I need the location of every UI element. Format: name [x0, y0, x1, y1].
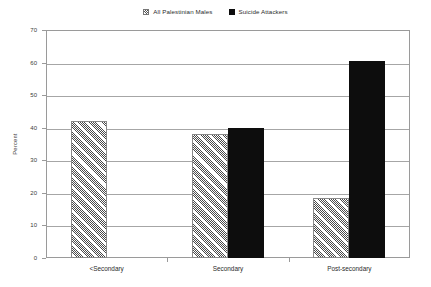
- x-tick-label: Post-secondary: [327, 266, 371, 272]
- y-axis-title: Percent: [12, 133, 18, 154]
- x-tick-mark: [289, 258, 290, 262]
- filled-square-icon: [229, 9, 235, 15]
- hatched-square-icon: [143, 9, 149, 15]
- gridline: [47, 64, 409, 65]
- legend-entry-suicide-attackers: Suicide Attackers: [229, 9, 288, 15]
- y-tick-label: 10: [30, 222, 37, 228]
- legend-entry-all-palestinian-males: All Palestinian Males: [143, 9, 212, 15]
- gridline: [47, 129, 409, 130]
- gridline: [47, 161, 409, 162]
- y-tick-label: 70: [30, 27, 37, 33]
- plot-area: [46, 30, 410, 258]
- gridline: [47, 96, 409, 97]
- legend-label: All Palestinian Males: [153, 9, 212, 15]
- bar-chart: All Palestinian Males Suicide Attackers …: [0, 0, 431, 287]
- y-axis: Percent 010203040506070: [0, 0, 46, 287]
- y-tick-label: 0: [34, 255, 37, 261]
- x-tick-label: Secondary: [213, 266, 244, 272]
- y-tick-label: 50: [30, 92, 37, 98]
- gridline: [47, 194, 409, 195]
- gridline: [47, 226, 409, 227]
- y-tick-label: 20: [30, 190, 37, 196]
- legend-label: Suicide Attackers: [239, 9, 288, 15]
- y-tick-label: 40: [30, 125, 37, 131]
- x-tick-label: <Secondary: [90, 266, 124, 272]
- chart-legend: All Palestinian Males Suicide Attackers: [0, 9, 431, 15]
- x-tick-mark: [167, 258, 168, 262]
- y-tick-label: 60: [30, 60, 37, 66]
- x-axis: <SecondarySecondaryPost-secondary: [46, 258, 410, 287]
- y-tick-label: 30: [30, 157, 37, 163]
